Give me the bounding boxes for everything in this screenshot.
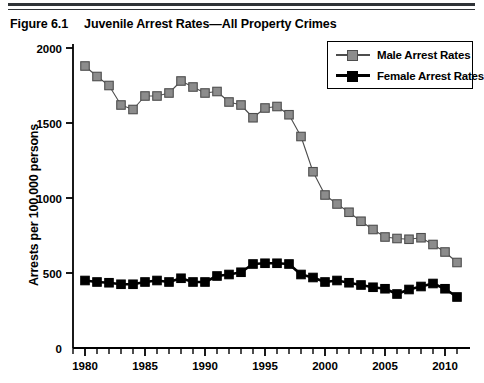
svg-text:1500: 1500 <box>36 118 62 130</box>
chart-legend: Male Arrest Rates Female Arrest Rates <box>327 41 473 89</box>
svg-text:1000: 1000 <box>36 193 62 205</box>
svg-text:2005: 2005 <box>372 360 398 372</box>
svg-text:2010: 2010 <box>432 360 458 372</box>
svg-text:1980: 1980 <box>72 360 98 372</box>
svg-text:1985: 1985 <box>132 360 158 372</box>
svg-text:2000: 2000 <box>36 43 62 55</box>
legend-item-female: Female Arrest Rates <box>336 67 484 85</box>
svg-text:500: 500 <box>43 268 62 280</box>
svg-text:1990: 1990 <box>192 360 218 372</box>
legend-item-male: Male Arrest Rates <box>336 46 470 64</box>
legend-label-female: Female Arrest Rates <box>377 70 484 82</box>
svg-text:0: 0 <box>56 343 62 355</box>
svg-text:2000: 2000 <box>312 360 338 372</box>
legend-swatch-male <box>336 48 370 62</box>
legend-swatch-female <box>336 69 370 83</box>
svg-text:1995: 1995 <box>252 360 278 372</box>
legend-label-male: Male Arrest Rates <box>377 49 470 61</box>
legend-marker-female <box>347 71 358 82</box>
legend-marker-male <box>347 50 358 61</box>
